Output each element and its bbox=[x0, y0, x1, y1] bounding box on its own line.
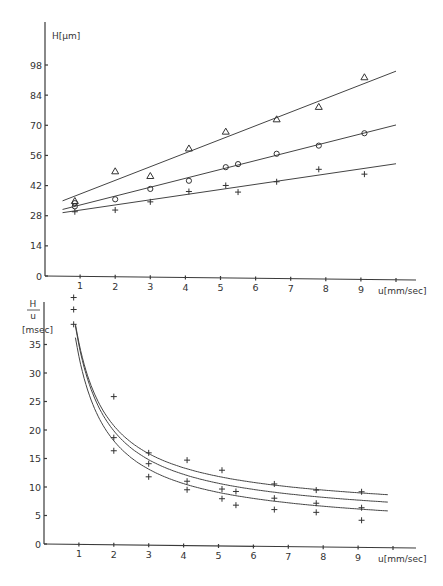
plus-marker bbox=[313, 509, 319, 515]
x-tick-label: 6 bbox=[250, 550, 256, 561]
y-tick-label: 84 bbox=[30, 90, 42, 101]
y-tick-label: 28 bbox=[30, 210, 42, 221]
plus-marker bbox=[219, 496, 225, 502]
fit-curve-upper bbox=[75, 324, 387, 495]
top-chart: 014284256708498 123456789 H[µm] u[mm/sec… bbox=[30, 22, 427, 296]
y-tick-label: 70 bbox=[30, 120, 42, 131]
bottom-fit-curves bbox=[75, 324, 387, 511]
plus-marker bbox=[184, 457, 190, 463]
x-tick-label: 3 bbox=[146, 549, 152, 560]
plus-marker bbox=[111, 448, 117, 454]
plus-marker bbox=[71, 295, 77, 301]
plus-marker bbox=[271, 495, 277, 501]
bottom-x-axis bbox=[44, 544, 416, 548]
x-tick-label: 5 bbox=[215, 550, 221, 561]
x-tick-label: 6 bbox=[253, 282, 259, 293]
y-tick-label: 98 bbox=[30, 60, 42, 71]
bottom-y-axis-denominator: u bbox=[30, 311, 36, 321]
y-tick-label: 56 bbox=[30, 150, 42, 161]
plus-marker bbox=[112, 207, 118, 213]
x-tick-label: 9 bbox=[355, 552, 361, 563]
x-tick-label: 1 bbox=[77, 280, 83, 291]
x-tick-label: 1 bbox=[76, 548, 82, 559]
y-tick-label: 42 bbox=[30, 180, 42, 191]
triangle-marker bbox=[315, 103, 322, 109]
x-tick-label: 8 bbox=[323, 283, 329, 294]
x-tick-label: 4 bbox=[181, 550, 187, 561]
x-tick-label: 2 bbox=[112, 281, 118, 292]
plus-marker bbox=[219, 467, 225, 473]
y-tick-label: 30 bbox=[29, 368, 41, 379]
y-tick-label: 0 bbox=[35, 539, 41, 550]
top-x-axis-title: u[mm/sec] bbox=[378, 286, 426, 296]
plus-marker bbox=[223, 182, 229, 188]
fit-line-triangle bbox=[63, 71, 396, 201]
bottom-y-axis-numerator: H bbox=[30, 299, 37, 309]
plus-marker bbox=[233, 502, 239, 508]
plus-marker bbox=[146, 474, 152, 480]
plus-marker bbox=[271, 481, 277, 487]
circle-marker bbox=[316, 143, 321, 148]
fit-line-circle bbox=[63, 125, 396, 209]
plus-marker bbox=[72, 209, 78, 215]
circle-marker bbox=[186, 178, 191, 183]
fit-curve-lower bbox=[75, 338, 387, 511]
plus-marker bbox=[146, 461, 152, 467]
plus-marker bbox=[235, 189, 241, 195]
plus-marker bbox=[111, 394, 117, 400]
plus-marker bbox=[274, 179, 280, 185]
top-fit-lines bbox=[63, 71, 396, 213]
plus-marker bbox=[271, 507, 277, 513]
y-tick-label: 25 bbox=[29, 396, 41, 407]
plus-marker bbox=[359, 517, 365, 523]
x-tick-label: 7 bbox=[288, 283, 294, 294]
x-tick-label: 2 bbox=[111, 549, 117, 560]
fit-curve-middle bbox=[75, 326, 387, 502]
circle-marker bbox=[113, 197, 118, 202]
bottom-x-axis-title: u[mm/sec] bbox=[378, 554, 426, 564]
bottom-data-points bbox=[71, 295, 365, 524]
y-tick-label: 35 bbox=[29, 339, 41, 350]
x-tick-label: 4 bbox=[182, 282, 188, 293]
figure: 014284256708498 123456789 H[µm] u[mm/sec… bbox=[0, 0, 443, 586]
triangle-marker bbox=[147, 173, 154, 179]
plus-marker bbox=[111, 435, 117, 441]
bottom-chart: 05101520253035 123456789 H u [msec] u[mm… bbox=[22, 295, 426, 564]
x-tick-label: 9 bbox=[358, 284, 364, 295]
y-tick-label: 14 bbox=[30, 240, 42, 251]
bottom-y-axis-unit: [msec] bbox=[22, 325, 53, 335]
plus-marker bbox=[313, 487, 319, 493]
y-tick-label: 20 bbox=[29, 425, 41, 436]
triangle-marker bbox=[185, 145, 192, 151]
x-tick-label: 5 bbox=[217, 282, 223, 293]
top-y-axis-title: H[µm] bbox=[52, 31, 80, 41]
y-tick-label: 15 bbox=[29, 453, 41, 464]
plus-marker bbox=[184, 478, 190, 484]
plus-marker bbox=[361, 171, 367, 177]
top-data-points bbox=[71, 74, 368, 215]
y-tick-label: 10 bbox=[29, 482, 41, 493]
plus-marker bbox=[184, 487, 190, 493]
plus-marker bbox=[71, 307, 77, 313]
plus-marker bbox=[316, 166, 322, 172]
fit-line-plus bbox=[63, 164, 396, 213]
x-tick-label: 8 bbox=[320, 551, 326, 562]
y-tick-label: 0 bbox=[36, 271, 42, 282]
y-tick-label: 5 bbox=[35, 510, 41, 521]
triangle-marker bbox=[112, 168, 119, 174]
x-tick-label: 7 bbox=[285, 551, 291, 562]
x-tick-label: 3 bbox=[147, 281, 153, 292]
triangle-marker bbox=[361, 74, 368, 80]
triangle-marker bbox=[222, 128, 229, 134]
plus-marker bbox=[219, 486, 225, 492]
plus-marker bbox=[233, 488, 239, 494]
plus-marker bbox=[359, 489, 365, 495]
